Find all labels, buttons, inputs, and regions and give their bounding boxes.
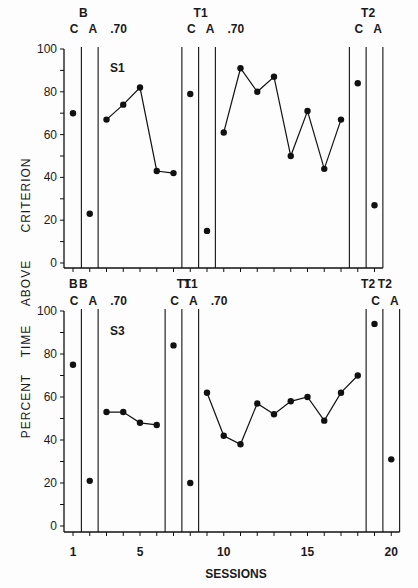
x-tick-label: 10 (217, 545, 231, 559)
data-point (221, 129, 227, 135)
data-point (187, 480, 193, 486)
data-point (103, 116, 109, 122)
data-point (70, 362, 76, 368)
condition-label-a: A (206, 22, 215, 36)
data-point (120, 409, 126, 415)
phase-group-label: B (79, 6, 88, 20)
phase-group-label: T1 (194, 6, 208, 20)
data-point (237, 441, 243, 447)
data-line (107, 412, 157, 425)
subject-label: S1 (110, 61, 125, 75)
phase-group-label: T2 (361, 6, 375, 20)
phase-group-label: B (79, 277, 88, 291)
data-point (321, 166, 327, 172)
data-point (204, 390, 210, 396)
data-point (355, 80, 361, 86)
data-point (321, 417, 327, 423)
y-tick-label: 20 (44, 476, 58, 490)
data-point (87, 211, 93, 217)
x-tick-label: 20 (385, 545, 399, 559)
data-point (204, 228, 210, 234)
data-point (355, 372, 361, 378)
data-line (207, 376, 358, 445)
data-point (371, 321, 377, 327)
data-point (137, 420, 143, 426)
y-tick-label: 20 (44, 213, 58, 227)
data-point (254, 89, 260, 95)
data-point (388, 456, 394, 462)
condition-label-c: C (371, 294, 380, 308)
bottom-panel: 020406080100BCAT1CAT2CA.70.70S315101520 (37, 277, 400, 559)
condition-label-c: C (70, 294, 79, 308)
data-line (107, 88, 174, 174)
phase-group-label: T2 (378, 277, 392, 291)
data-point (254, 400, 260, 406)
x-phase-tick-label: T2 (361, 277, 375, 291)
data-point (271, 74, 277, 80)
y-tick-label: 100 (37, 42, 57, 56)
y-tick-label: 80 (44, 347, 58, 361)
data-line (224, 68, 341, 169)
data-point (221, 433, 227, 439)
xlabel: SESSIONS (205, 567, 266, 581)
subject-label: S3 (110, 324, 125, 338)
phase-ratio-label: .70 (227, 22, 244, 36)
data-point (288, 153, 294, 159)
x-tick-label: 5 (137, 545, 144, 559)
condition-label-c: C (170, 294, 179, 308)
data-point (271, 411, 277, 417)
condition-label-a: A (88, 294, 97, 308)
data-point (120, 101, 126, 107)
phase-ratio-label: .70 (211, 294, 228, 308)
data-point (137, 84, 143, 90)
condition-label-a: A (373, 22, 382, 36)
y-tick-label: 40 (44, 433, 58, 447)
y-tick-label: 60 (44, 390, 58, 404)
data-point (87, 478, 93, 484)
data-point (154, 168, 160, 174)
data-point (338, 390, 344, 396)
y-tick-label: 0 (50, 519, 57, 533)
data-point (103, 409, 109, 415)
condition-label-c: C (187, 22, 196, 36)
condition-label-a: A (390, 294, 399, 308)
data-point (154, 422, 160, 428)
data-point (170, 170, 176, 176)
data-point (338, 116, 344, 122)
data-point (288, 398, 294, 404)
phase-ratio-label: .70 (110, 22, 127, 36)
phase-ratio-label: .70 (110, 294, 127, 308)
figure: 020406080100BCAT1CAT2CA.70.70S1BT1T2 020… (0, 0, 418, 588)
data-point (304, 108, 310, 114)
x-phase-tick-label: B (69, 277, 78, 291)
top-panel: 020406080100BCAT1CAT2CA.70.70S1BT1T2 (37, 6, 383, 291)
x-tick-label: 1 (70, 545, 77, 559)
y-tick-label: 80 (44, 85, 58, 99)
ylabel-time: TIME (19, 325, 33, 358)
condition-label-c: C (70, 22, 79, 36)
data-point (70, 110, 76, 116)
phase-group-label: T1 (177, 277, 191, 291)
y-tick-label: 40 (44, 170, 58, 184)
condition-label-c: C (354, 22, 363, 36)
data-point (304, 394, 310, 400)
data-point (371, 202, 377, 208)
y-tick-label: 100 (37, 304, 57, 318)
data-point (170, 342, 176, 348)
x-tick-label: 15 (301, 545, 315, 559)
condition-label-a: A (88, 22, 97, 36)
y-tick-label: 60 (44, 128, 58, 142)
ylabel-criterion: CRITERION (19, 158, 33, 233)
ylabel-above: ABOVE (19, 260, 33, 306)
data-point (187, 91, 193, 97)
condition-label-a: A (189, 294, 198, 308)
data-point (237, 65, 243, 71)
y-tick-label: 0 (50, 256, 57, 270)
ylabel-percent: PERCENT (19, 374, 33, 438)
